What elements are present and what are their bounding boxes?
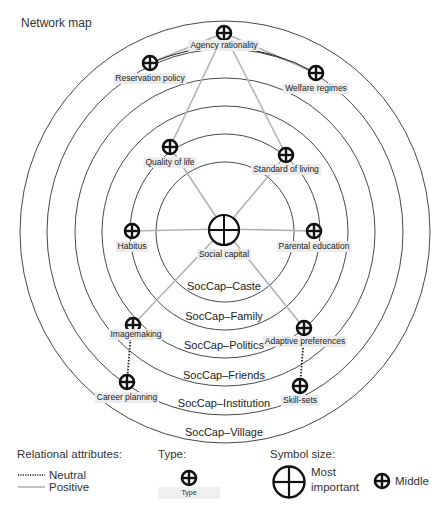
- node-welfare-icon: [309, 66, 323, 80]
- edge-agency-welfare: [224, 33, 316, 73]
- node-label-imagemaking: Imagemaking: [108, 329, 163, 340]
- legend-most-important-icon: [274, 467, 305, 498]
- node-label-quality: Quality of life: [143, 157, 196, 168]
- ring-label-institution: SocCap–Institution: [178, 397, 270, 409]
- node-agency-icon: [217, 26, 231, 40]
- node-adaptive-icon: [297, 321, 311, 335]
- legend-most-label-line2: important: [311, 481, 359, 494]
- node-label-reservation: Reservation policy: [113, 73, 186, 84]
- node-quality-icon: [163, 140, 177, 154]
- node-label-habitus: Habitus: [116, 241, 149, 252]
- legend-most-label-line1: Most: [311, 466, 336, 479]
- node-skills-icon: [293, 379, 307, 393]
- node-label-adaptive: Adaptive preferences: [263, 336, 347, 347]
- legend-type-heading: Type:: [158, 448, 186, 460]
- ring-label-friends: SocCap–Friends: [183, 369, 265, 381]
- node-label-skills: Skill-sets: [281, 395, 319, 406]
- legend-type-label: Type: [158, 487, 220, 499]
- node-label-agency: Agency rationality: [188, 40, 259, 51]
- legend-positive-label: Positive: [49, 481, 89, 494]
- node-parental-icon: [307, 224, 321, 238]
- network-map-figure: Network map: [0, 0, 446, 516]
- ring-label-family: SocCap–Family: [185, 310, 263, 322]
- node-standard-icon: [279, 148, 293, 162]
- node-label-career: Career planning: [95, 392, 159, 403]
- ring-label-caste: SocCap–Caste: [187, 280, 261, 292]
- legend-middle-icon: [375, 474, 389, 488]
- node-career-icon: [120, 375, 134, 389]
- node-label-social-capital: Social capital: [197, 249, 251, 260]
- node-label-standard: Standard of living: [251, 164, 321, 175]
- node-social-capital-icon: [209, 215, 239, 245]
- legend-middle-label: Middle: [395, 475, 429, 488]
- legend-relational-heading: Relational attributes:: [17, 448, 122, 460]
- node-reservation-icon: [143, 56, 157, 70]
- node-label-welfare: Welfare regimes: [283, 83, 349, 94]
- node-habitus-icon: [125, 224, 139, 238]
- ring-label-village: SocCap–Village: [185, 426, 263, 438]
- node-label-parental: Parental education: [277, 241, 352, 252]
- ring-label-politics: SocCap–Politics: [184, 339, 264, 351]
- legend-size-heading: Symbol size:: [270, 448, 335, 460]
- legend-type-icon: [182, 471, 196, 485]
